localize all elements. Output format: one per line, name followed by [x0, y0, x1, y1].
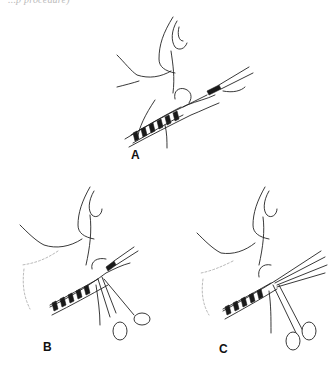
- caption-fragment: ...p procedure): [8, 0, 70, 5]
- panel-c: [185, 185, 330, 355]
- neck-illustration-b-icon: [10, 185, 160, 345]
- panel-b: [10, 185, 160, 345]
- neck-illustration-a-icon: [115, 15, 255, 150]
- forceps: [273, 285, 316, 350]
- grasping-instrument: [106, 247, 138, 271]
- panel-label-a: A: [131, 148, 140, 162]
- threads: [275, 251, 327, 287]
- spiral-coil: [131, 107, 183, 143]
- grasping-instrument: [183, 67, 253, 107]
- panel-label-c: C: [219, 342, 228, 356]
- neck-illustration-c-icon: [185, 185, 330, 355]
- panel-label-b: B: [43, 340, 52, 354]
- forceps: [98, 277, 150, 340]
- panel-a: [115, 15, 255, 150]
